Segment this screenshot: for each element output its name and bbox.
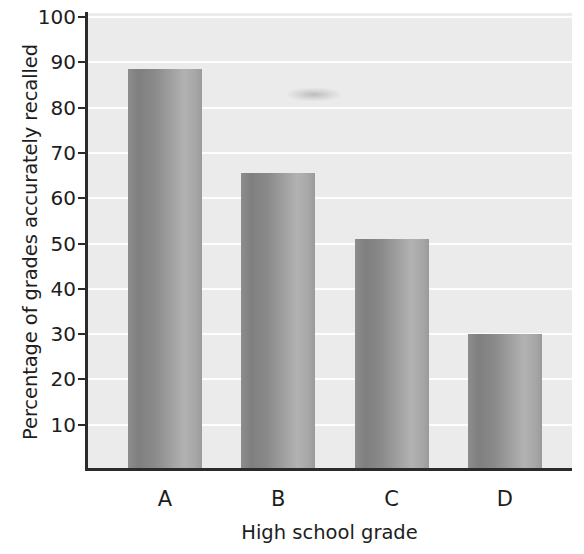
bar-b — [241, 173, 315, 470]
x-tick-label-d: D — [460, 487, 550, 511]
y-tick-mark — [78, 197, 87, 199]
y-tick-label: 10 — [22, 415, 76, 435]
y-tick-label: 70 — [22, 143, 76, 163]
x-tick-label-b: B — [233, 487, 323, 511]
bar-c — [355, 239, 429, 470]
y-tick-mark — [78, 333, 87, 335]
y-tick-mark — [78, 288, 87, 290]
gridline — [87, 61, 572, 63]
y-tick-label: 80 — [22, 98, 76, 118]
y-tick-label: 30 — [22, 324, 76, 344]
y-tick-label: 20 — [22, 369, 76, 389]
y-tick-label: 60 — [22, 188, 76, 208]
y-tick-label: 50 — [22, 234, 76, 254]
bar-d — [468, 334, 542, 470]
x-tick-label-c: C — [347, 487, 437, 511]
bar-a — [128, 69, 202, 470]
y-tick-mark — [78, 243, 87, 245]
gridline — [87, 16, 572, 18]
plot-area — [87, 13, 572, 470]
y-tick-label: 40 — [22, 279, 76, 299]
bar-chart-figure: Percentage of grades accurately recalled… — [0, 0, 584, 554]
x-axis-line — [85, 468, 572, 471]
x-axis-title: High school grade — [87, 521, 572, 545]
y-tick-mark — [78, 152, 87, 154]
y-tick-label: 90 — [22, 52, 76, 72]
y-axis-line — [85, 12, 88, 471]
y-axis-tick-labels: 102030405060708090100 — [22, 0, 76, 554]
y-tick-mark — [78, 107, 87, 109]
y-tick-label: 100 — [22, 7, 76, 27]
y-tick-mark — [78, 61, 87, 63]
y-tick-mark — [78, 16, 87, 18]
x-tick-label-a: A — [120, 487, 210, 511]
y-tick-mark — [78, 424, 87, 426]
y-tick-mark — [78, 378, 87, 380]
